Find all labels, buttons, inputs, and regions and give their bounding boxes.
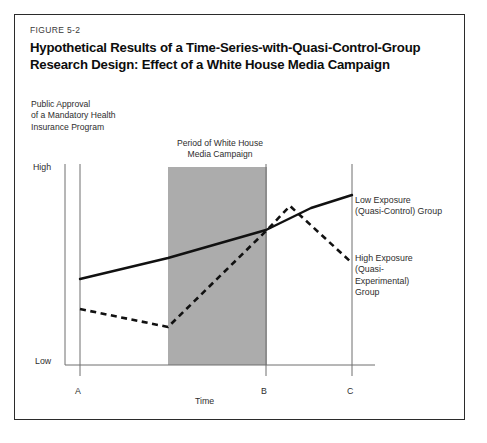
legend-high-exposure-line-3: Experimental) [355,276,460,287]
legend-low-exposure-line-1: Low Exposure [355,195,470,206]
y-axis-tick-high: High [33,162,51,172]
x-axis-tick-b: B [261,386,267,396]
legend-high-exposure-line-4: Group [355,287,460,298]
y-axis-tick-low: Low [35,356,51,366]
legend-low-exposure-line-2: (Quasi-Control) Group [355,206,470,217]
legend-high-exposure-line-2: (Quasi- [355,264,460,275]
figure-container: FIGURE 5-2 Hypothetical Results of a Tim… [14,14,465,420]
x-axis-title: Time [195,396,214,406]
x-axis-tick-c: C [347,386,353,396]
legend-item-high-exposure: High Exposure (Quasi- Experimental) Grou… [355,253,460,298]
campaign-shaded-band [168,167,267,365]
chart-plot-area [15,15,466,421]
legend-high-exposure-line-1: High Exposure [355,253,460,264]
legend-item-low-exposure: Low Exposure (Quasi-Control) Group [355,195,470,218]
x-axis-tick-a: A [75,386,81,396]
